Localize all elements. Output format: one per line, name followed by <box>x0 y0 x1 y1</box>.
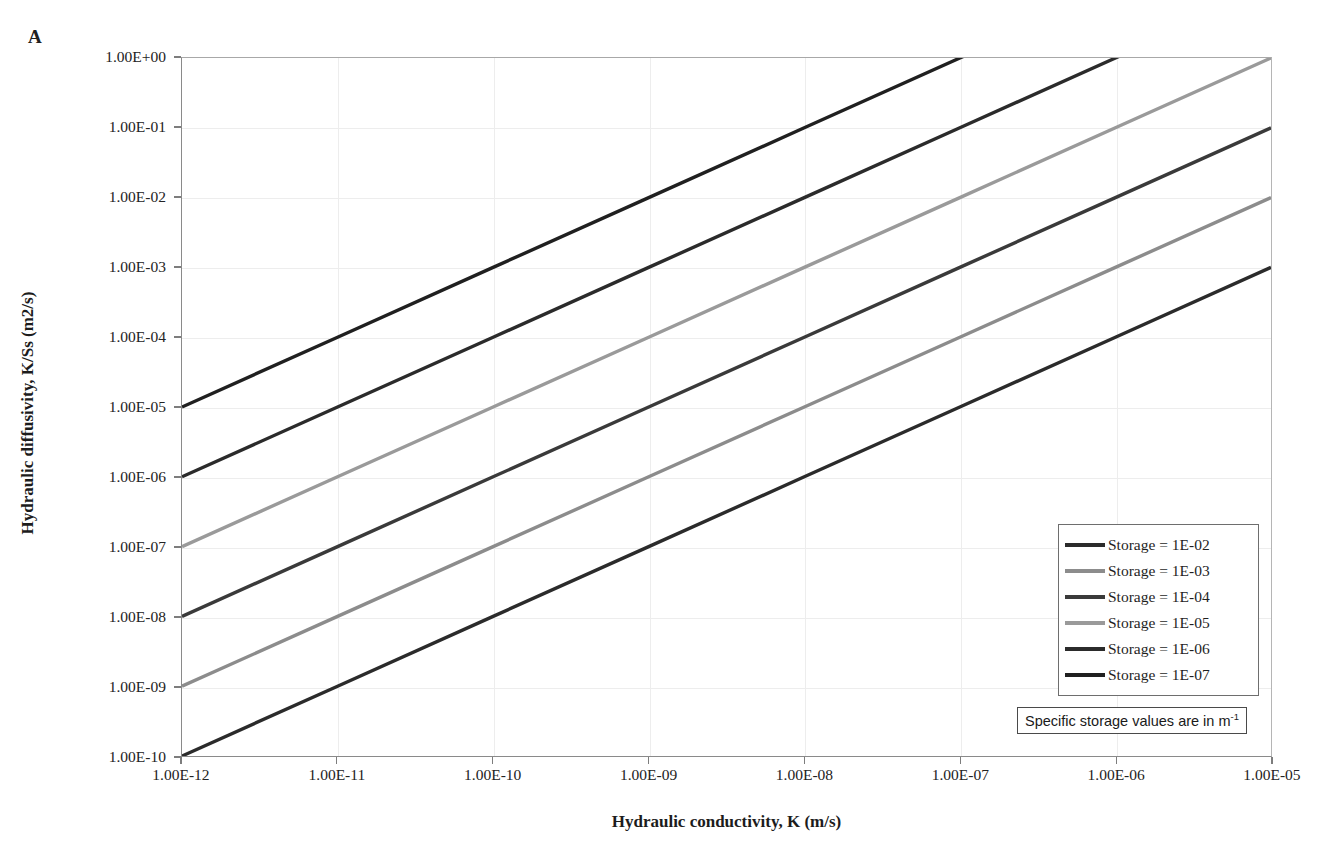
note-box: Specific storage values are in m-1 <box>1017 707 1247 734</box>
x-tick-mark <box>1116 757 1117 764</box>
y-tick-label: 1.00E-06 <box>109 469 166 485</box>
x-tick-label: 1.00E-07 <box>932 767 989 783</box>
legend-label: Storage = 1E-03 <box>1108 562 1210 580</box>
note-exponent: -1 <box>1231 711 1239 722</box>
series-line <box>182 58 1271 547</box>
figure-panel-a: A 1.00E+001.00E-011.00E-021.00E-031.00E-… <box>0 0 1330 849</box>
legend[interactable]: Storage = 1E-02Storage = 1E-03Storage = … <box>1058 524 1259 696</box>
y-tick-label: 1.00E-10 <box>109 749 166 765</box>
y-tick-mark <box>174 196 181 197</box>
x-tick-label: 1.00E-11 <box>309 767 366 783</box>
x-tick-label: 1.00E-08 <box>776 767 833 783</box>
legend-swatch-icon <box>1065 595 1105 598</box>
legend-swatch-icon <box>1065 543 1105 546</box>
y-tick-mark <box>174 336 181 337</box>
legend-item[interactable]: Storage = 1E-04 <box>1065 584 1252 610</box>
legend-item[interactable]: Storage = 1E-06 <box>1065 636 1252 662</box>
legend-swatch-icon <box>1065 673 1105 676</box>
panel-label: A <box>28 26 42 48</box>
legend-item[interactable]: Storage = 1E-07 <box>1065 662 1252 688</box>
legend-swatch-icon <box>1065 621 1105 624</box>
legend-item[interactable]: Storage = 1E-02 <box>1065 532 1252 558</box>
y-tick-mark <box>174 616 181 617</box>
x-tick-label: 1.00E-12 <box>152 767 209 783</box>
x-tick-mark <box>1271 757 1272 764</box>
y-tick-label: 1.00E-04 <box>109 329 166 345</box>
legend-label: Storage = 1E-05 <box>1108 614 1210 632</box>
y-tick-mark <box>174 126 181 127</box>
y-tick-mark <box>174 406 181 407</box>
y-tick-mark <box>174 56 181 57</box>
x-tick-mark <box>336 757 337 764</box>
y-tick-label: 1.00E-09 <box>109 679 166 695</box>
x-tick-label: 1.00E-10 <box>464 767 521 783</box>
y-tick-mark <box>174 266 181 267</box>
legend-label: Storage = 1E-06 <box>1108 640 1210 658</box>
y-tick-label: 1.00E+00 <box>105 49 166 65</box>
x-tick-mark <box>180 757 181 764</box>
y-tick-label: 1.00E-07 <box>109 539 166 555</box>
x-tick-mark <box>960 757 961 764</box>
y-tick-label: 1.00E-05 <box>109 399 166 415</box>
x-tick-label: 1.00E-05 <box>1243 767 1300 783</box>
series-line <box>182 58 1271 477</box>
legend-swatch-icon <box>1065 647 1105 650</box>
y-axis-title: Hydraulic diffusivity, K/Ss (m2/s) <box>18 63 38 763</box>
y-tick-label: 1.00E-08 <box>109 609 166 625</box>
legend-label: Storage = 1E-07 <box>1108 666 1210 684</box>
y-tick-label: 1.00E-01 <box>109 119 166 135</box>
legend-label: Storage = 1E-02 <box>1108 536 1210 554</box>
x-tick-mark <box>648 757 649 764</box>
x-tick-label: 1.00E-09 <box>620 767 677 783</box>
x-tick-label: 1.00E-06 <box>1088 767 1145 783</box>
x-tick-mark <box>804 757 805 764</box>
y-tick-mark <box>174 546 181 547</box>
y-tick-label: 1.00E-02 <box>109 189 166 205</box>
legend-item[interactable]: Storage = 1E-05 <box>1065 610 1252 636</box>
legend-item[interactable]: Storage = 1E-03 <box>1065 558 1252 584</box>
legend-label: Storage = 1E-04 <box>1108 588 1210 606</box>
y-tick-label: 1.00E-03 <box>109 259 166 275</box>
note-text: Specific storage values are in m <box>1025 713 1231 729</box>
y-tick-mark <box>174 476 181 477</box>
x-tick-mark <box>492 757 493 764</box>
y-tick-mark <box>174 686 181 687</box>
x-axis-title: Hydraulic conductivity, K (m/s) <box>181 812 1272 832</box>
legend-swatch-icon <box>1065 569 1105 572</box>
